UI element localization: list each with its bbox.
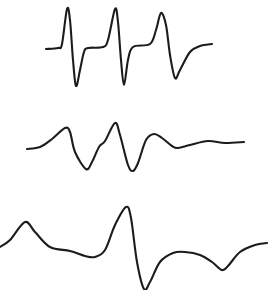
middle-trace	[27, 123, 244, 171]
waveform-figure	[0, 0, 275, 290]
waveform-plot	[0, 0, 275, 290]
top-trace	[46, 8, 212, 86]
bottom-trace	[0, 207, 267, 290]
